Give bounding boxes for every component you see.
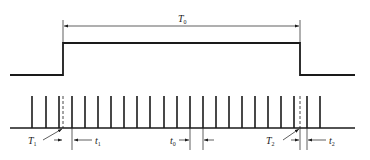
T2-label: T2 — [266, 135, 275, 147]
gate-waveform — [10, 43, 355, 75]
t0-label: t0 — [170, 135, 176, 147]
T1-label: T1 — [28, 135, 37, 147]
gate-signal-line — [10, 43, 355, 75]
t1-lower-annotation: t1 — [74, 135, 101, 147]
t1-label: t1 — [95, 135, 101, 147]
t2-label: t2 — [329, 135, 335, 147]
t2-upper-annotation: T2 — [266, 128, 300, 150]
clock-pulses — [32, 96, 320, 128]
t0-period-annotation: t0 — [170, 128, 214, 150]
timing-diagram: T0 T1 t1 t0 T2 t2 — [0, 0, 370, 160]
t1-upper-annotation: T1 — [28, 128, 72, 150]
gate-width-label: T0 — [178, 13, 187, 25]
t2-lower-annotation: t2 — [307, 128, 335, 150]
clock-pulse-train — [10, 96, 355, 128]
t0-gate-width-dimension: T0 — [63, 13, 300, 43]
